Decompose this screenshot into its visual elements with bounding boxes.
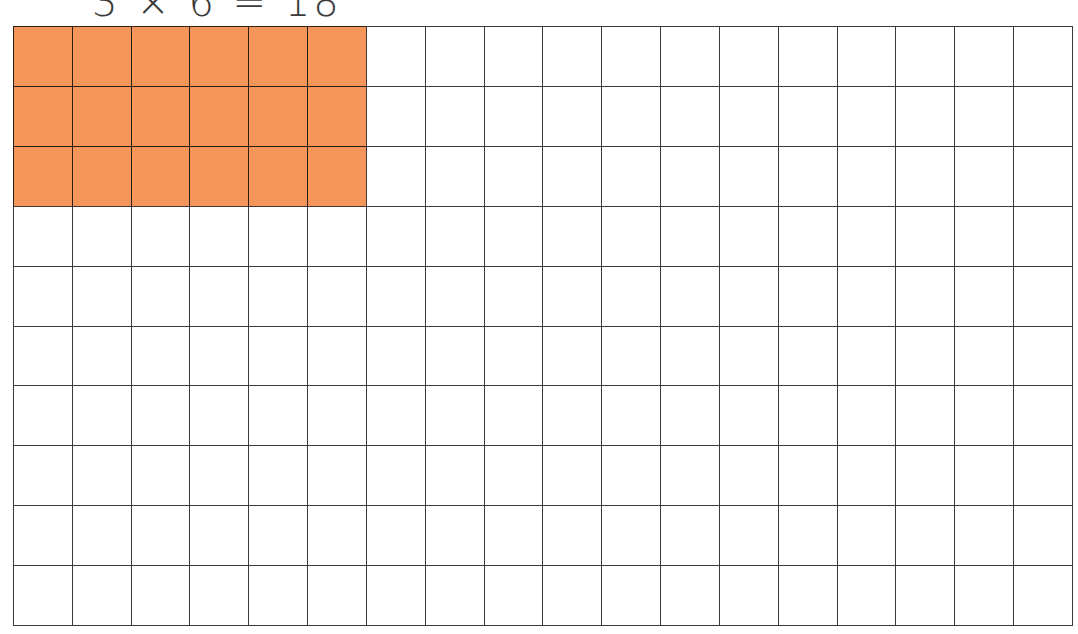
grid-cell: [660, 146, 719, 206]
grid-cell: [307, 385, 366, 445]
grid-cell: [837, 86, 896, 146]
grid-cell: [425, 565, 484, 625]
grid-cell: [1013, 385, 1072, 445]
grid-cell: [307, 326, 366, 386]
grid-cell: [13, 565, 72, 625]
grid-cell: [131, 565, 190, 625]
grid-cell: [307, 206, 366, 266]
grid-cell: [601, 445, 660, 505]
grid-cell: [954, 445, 1013, 505]
grid-cell: [660, 206, 719, 266]
grid-cell: [366, 385, 425, 445]
grid-cell: [601, 26, 660, 86]
grid-cell: [425, 445, 484, 505]
grid-cell: [660, 565, 719, 625]
grid-cell: [189, 206, 248, 266]
grid-cell: [425, 86, 484, 146]
grid-cell: [484, 26, 543, 86]
grid-cell: [248, 206, 307, 266]
grid-cell: [72, 326, 131, 386]
grid-cell: [366, 206, 425, 266]
grid-cell: [131, 266, 190, 326]
grid-cell: [660, 445, 719, 505]
grid-cell: [366, 86, 425, 146]
grid-cell: [542, 565, 601, 625]
grid-cell: [542, 206, 601, 266]
grid-cell: [307, 445, 366, 505]
grid-cell: [307, 505, 366, 565]
grid-cell: [895, 146, 954, 206]
grid-cell-highlighted: [72, 146, 131, 206]
grid-cell: [189, 266, 248, 326]
grid-cell: [542, 505, 601, 565]
grid-cell: [719, 86, 778, 146]
grid-cell: [719, 445, 778, 505]
equation-label: 3 × 6 = 18: [92, 0, 342, 26]
grid-cell: [778, 86, 837, 146]
grid-cell: [484, 86, 543, 146]
grid-cell: [660, 26, 719, 86]
grid-cell: [837, 445, 896, 505]
array-grid-container: [13, 26, 1073, 626]
grid-cell: [837, 146, 896, 206]
grid-cell: [1013, 146, 1072, 206]
grid-cell: [954, 326, 1013, 386]
grid-cell: [778, 565, 837, 625]
grid-cell: [660, 385, 719, 445]
grid-cell: [542, 445, 601, 505]
grid-cell: [131, 445, 190, 505]
grid-cell: [72, 505, 131, 565]
array-grid: [13, 26, 1073, 626]
grid-cell: [601, 505, 660, 565]
grid-cell: [425, 26, 484, 86]
grid-cell: [248, 326, 307, 386]
grid-cell: [189, 505, 248, 565]
grid-cell: [366, 146, 425, 206]
grid-cell-highlighted: [72, 86, 131, 146]
grid-cell: [719, 565, 778, 625]
grid-cell: [601, 206, 660, 266]
grid-cell-highlighted: [189, 26, 248, 86]
grid-cell: [778, 266, 837, 326]
grid-cell: [542, 26, 601, 86]
grid-cell: [484, 146, 543, 206]
grid-cell: [425, 326, 484, 386]
grid-cell: [425, 206, 484, 266]
grid-cell: [778, 385, 837, 445]
grid-cell: [719, 385, 778, 445]
grid-cell: [484, 385, 543, 445]
grid-cell-highlighted: [248, 26, 307, 86]
grid-cell: [189, 565, 248, 625]
grid-cell: [954, 385, 1013, 445]
grid-cell: [778, 146, 837, 206]
grid-cell: [72, 266, 131, 326]
grid-cell: [660, 505, 719, 565]
grid-cell: [1013, 505, 1072, 565]
grid-cell: [248, 385, 307, 445]
grid-cell: [542, 326, 601, 386]
grid-cell: [719, 505, 778, 565]
grid-cell: [189, 445, 248, 505]
grid-cell: [366, 445, 425, 505]
grid-cell: [72, 385, 131, 445]
grid-cell: [660, 326, 719, 386]
grid-cell: [248, 505, 307, 565]
grid-cell: [719, 146, 778, 206]
grid-cell: [601, 385, 660, 445]
grid-cell: [13, 505, 72, 565]
grid-cell: [954, 26, 1013, 86]
grid-cell: [1013, 445, 1072, 505]
grid-cell: [954, 565, 1013, 625]
grid-cell: [719, 326, 778, 386]
grid-cell-highlighted: [307, 86, 366, 146]
grid-cell: [778, 206, 837, 266]
grid-cell: [484, 445, 543, 505]
grid-cell: [895, 266, 954, 326]
grid-cell: [895, 26, 954, 86]
grid-cell: [719, 206, 778, 266]
grid-cell: [837, 385, 896, 445]
grid-cell: [131, 206, 190, 266]
grid-cell: [837, 565, 896, 625]
grid-cell: [778, 445, 837, 505]
grid-cell-highlighted: [72, 26, 131, 86]
